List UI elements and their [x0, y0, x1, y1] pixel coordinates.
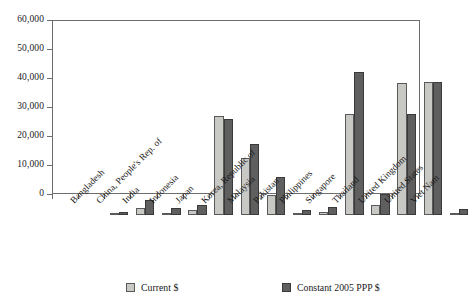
- legend-label-current: Current $: [141, 282, 178, 293]
- legend-entry-current: Current $: [126, 282, 178, 293]
- y-tick-label: 40,000: [17, 73, 44, 83]
- y-tick-label: 10,000: [17, 160, 44, 170]
- y-tick-label: 60,000: [17, 15, 44, 25]
- x-tick-label: Thailand: [331, 199, 338, 206]
- bar-constant: [433, 82, 442, 215]
- x-tick-label: Bangladesh: [69, 199, 76, 206]
- x-tick-label: China, People's Rep. of: [95, 199, 102, 206]
- legend-label-constant: Constant 2005 PPP $: [297, 282, 380, 293]
- legend-swatch-constant-icon: [282, 283, 291, 292]
- legend-entry-constant: Constant 2005 PPP $: [282, 282, 380, 293]
- x-tick-label: Viet Nam: [409, 199, 416, 206]
- x-tick-label: United States: [383, 199, 390, 206]
- y-tick-label: 50,000: [17, 44, 44, 54]
- x-tick-label: Malaysia: [226, 199, 233, 206]
- x-tick-label: Philippines: [278, 199, 285, 206]
- x-tick-label: Japan: [174, 199, 181, 206]
- x-tick-label: Korea, Republic of: [200, 199, 207, 206]
- bar-constant: [459, 209, 468, 215]
- y-tick-label: 0: [39, 189, 44, 199]
- x-tick-label: Pakistan: [252, 199, 259, 206]
- x-tick-label: India: [121, 199, 128, 206]
- x-tick-label: Singapore: [304, 199, 311, 206]
- y-tick-label: 30,000: [17, 102, 44, 112]
- x-tick-label: United Kingdom: [357, 199, 364, 206]
- bar-group: [446, 42, 472, 215]
- y-axis: 010,00020,00030,00040,00050,00060,000: [0, 20, 44, 194]
- bar-current: [450, 213, 459, 215]
- x-axis-labels: BangladeshChina, People's Rep. ofIndiaIn…: [0, 199, 432, 275]
- y-tick-label: 20,000: [17, 131, 44, 141]
- chart-legend: Current $ Constant 2005 PPP $: [52, 279, 420, 295]
- x-tick-label: Indonesia: [148, 199, 155, 206]
- legend-swatch-current-icon: [126, 283, 135, 292]
